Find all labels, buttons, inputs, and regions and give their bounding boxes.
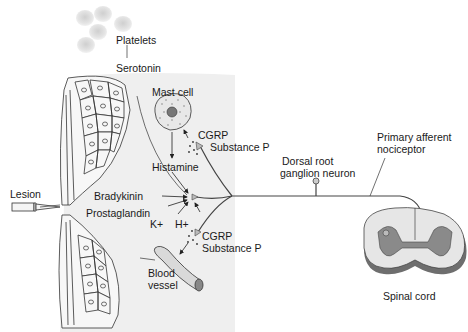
label-blood-vessel-line2: vessel [148,279,178,291]
label-dorsal-root-line1: Dorsal root [282,155,333,167]
label-bradykinin: Bradykinin [94,190,143,202]
label-substance-p-bottom: Substance P [202,242,262,254]
lesion-needle-icon [12,203,60,211]
mast-cell-icon [155,93,191,130]
label-blood-vessel-line1: Blood [148,267,175,279]
label-substance-p-top: Substance P [210,141,270,153]
label-prostaglandin: Prostaglandin [86,207,150,219]
nociception-diagram: Platelets Serotonin Mast cell CGRP Subst… [0,0,468,332]
label-histamine: Histamine [152,161,199,173]
label-k-plus: K+ [150,218,163,230]
label-cgrp-bottom: CGRP [202,230,232,242]
diagram-graphics [0,0,468,332]
label-platelets: Platelets [116,34,156,46]
label-mast-cell: Mast cell [152,86,193,98]
label-dorsal-root-line2: ganglion neuron [280,167,355,179]
label-primary-afferent-line1: Primary afferent [377,131,452,143]
label-lesion: Lesion [10,188,41,200]
label-serotonin: Serotonin [116,62,161,74]
label-cgrp-top: CGRP [198,129,228,141]
label-primary-afferent-line2: nociceptor [377,143,425,155]
label-h-plus: H+ [175,218,189,230]
label-spinal-cord: Spinal cord [383,290,436,302]
spinal-cord-icon [364,208,467,275]
